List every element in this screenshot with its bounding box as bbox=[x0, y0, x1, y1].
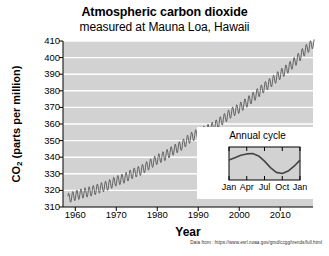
inset-x-tick-label: Jan bbox=[287, 182, 313, 192]
co2-chart: Atmospheric carbon dioxide measured at M… bbox=[0, 0, 329, 256]
inset-annual-cycle: Annual cycle JanAprJulOctJan bbox=[197, 127, 318, 199]
source-citation: Data from : https://www.esrl.noaa.gov/gm… bbox=[0, 240, 322, 245]
x-axis-label: Year bbox=[63, 225, 313, 239]
